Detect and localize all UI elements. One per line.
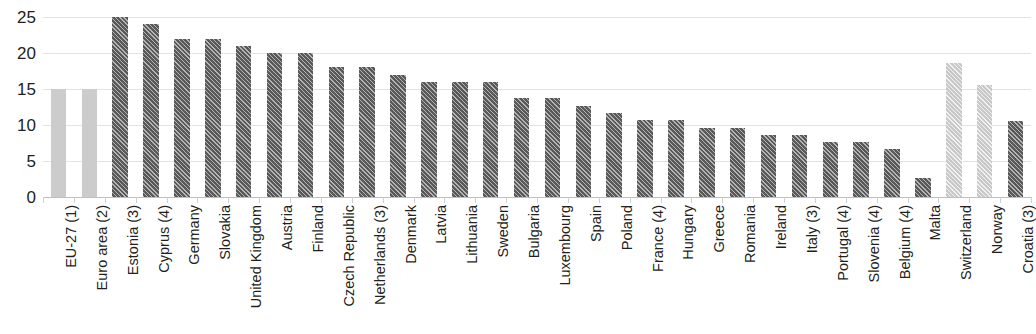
x-category-label: EU-27 (1) — [64, 205, 79, 268]
x-tick — [568, 197, 569, 203]
bar-slot — [143, 17, 158, 197]
x-category-label: Romania — [743, 205, 758, 263]
x-tick — [877, 197, 878, 203]
bar-slot — [792, 17, 807, 197]
bar — [761, 135, 776, 197]
bar — [236, 46, 251, 197]
bar-slot — [606, 17, 621, 197]
bar-slot — [267, 17, 282, 197]
bar — [1008, 121, 1023, 197]
x-tick — [784, 197, 785, 203]
bar-slot — [761, 17, 776, 197]
bar — [946, 63, 961, 197]
bar-slot — [174, 17, 189, 197]
x-tick — [969, 197, 970, 203]
x-category-label: Italy (3) — [805, 205, 820, 253]
bar-slot — [730, 17, 745, 197]
x-axis-category-labels: EU-27 (1)Euro area (2)Estonia (3)Cyprus … — [43, 205, 1031, 334]
bar-slot — [884, 17, 899, 197]
bar-slot — [545, 17, 560, 197]
bar — [730, 128, 745, 197]
x-tick — [475, 197, 476, 203]
bar-slot — [112, 17, 127, 197]
x-category-label: Euro area (2) — [95, 205, 110, 290]
bar-slot — [514, 17, 529, 197]
x-category-label: Netherlands (3) — [373, 205, 388, 305]
bar — [792, 135, 807, 197]
bar-slot — [329, 17, 344, 197]
x-tick — [259, 197, 260, 203]
bar — [823, 142, 838, 197]
x-category-label: Czech Republic — [342, 205, 357, 307]
x-category-label: Ireland — [774, 205, 789, 249]
x-tick — [815, 197, 816, 203]
bar — [606, 113, 621, 197]
x-tick — [74, 197, 75, 203]
x-category-label: France (4) — [651, 205, 666, 272]
bar-slot — [668, 17, 683, 197]
x-category-label: Cyprus (4) — [157, 205, 172, 273]
bar-slot — [298, 17, 313, 197]
y-axis-tick-labels: 0510152025 — [0, 17, 36, 197]
bar — [421, 82, 436, 197]
x-category-label: Sweden — [496, 205, 511, 257]
x-axis-ticks — [43, 197, 1031, 203]
bar-slot — [699, 17, 714, 197]
bar — [205, 39, 220, 197]
bar — [545, 98, 560, 197]
x-category-label: Germany — [187, 205, 202, 265]
bar — [915, 178, 930, 197]
bar — [112, 17, 127, 197]
x-tick — [383, 197, 384, 203]
x-tick — [290, 197, 291, 203]
x-tick — [414, 197, 415, 203]
bar — [51, 89, 66, 197]
bar — [576, 106, 591, 197]
y-tick-label-20: 20 — [17, 45, 36, 62]
x-category-label: Estonia (3) — [126, 205, 141, 275]
bar-slot — [853, 17, 868, 197]
bar — [452, 82, 467, 197]
bar — [514, 98, 529, 197]
x-category-label: Austria — [280, 205, 295, 250]
x-tick — [753, 197, 754, 203]
x-tick — [197, 197, 198, 203]
bar — [977, 85, 992, 197]
x-tick — [599, 197, 600, 203]
bar — [699, 128, 714, 197]
x-category-label: Poland — [620, 205, 635, 250]
bar — [298, 53, 313, 197]
x-tick — [846, 197, 847, 203]
x-tick — [1000, 197, 1001, 203]
x-category-label: Lithuania — [465, 205, 480, 264]
bar — [853, 142, 868, 197]
bar-slot — [421, 17, 436, 197]
bar-slot — [452, 17, 467, 197]
bar-slot — [576, 17, 591, 197]
bar-slot — [205, 17, 220, 197]
x-category-label: Hungary — [681, 205, 696, 260]
x-tick — [722, 197, 723, 203]
bar-slot — [637, 17, 652, 197]
x-tick — [1031, 197, 1032, 203]
y-tick-label-10: 10 — [17, 117, 36, 134]
x-category-label: Denmark — [404, 205, 419, 264]
x-category-label: Luxembourg — [558, 205, 573, 286]
x-category-label: Bulgaria — [527, 205, 542, 258]
x-category-label: Slovakia — [218, 205, 233, 260]
x-tick — [136, 197, 137, 203]
bar-slot — [483, 17, 498, 197]
x-tick — [938, 197, 939, 203]
x-category-label: Slovenia (4) — [867, 205, 882, 282]
x-tick — [537, 197, 538, 203]
bar-slot — [359, 17, 374, 197]
bar-slot — [915, 17, 930, 197]
y-tick-label-0: 0 — [27, 189, 36, 206]
y-tick-label-25: 25 — [17, 9, 36, 26]
bar-series — [43, 17, 1031, 197]
bar-slot — [1008, 17, 1023, 197]
x-category-label: Belgium (4) — [898, 205, 913, 279]
bar — [390, 75, 405, 197]
bar — [884, 149, 899, 197]
bar — [267, 53, 282, 197]
